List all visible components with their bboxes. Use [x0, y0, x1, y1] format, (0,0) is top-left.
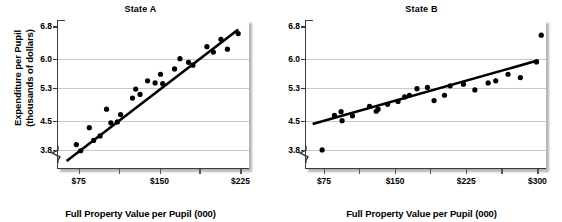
data-point	[172, 66, 177, 71]
x-tick-mark	[359, 169, 360, 174]
y-tick-label: 4.5	[278, 116, 300, 126]
data-point	[118, 112, 123, 117]
x-tick-mark	[466, 169, 467, 174]
panel-b-plot-area	[305, 20, 546, 169]
data-layer	[58, 20, 249, 168]
y-tick-label: 3.8	[278, 145, 300, 155]
data-point	[130, 96, 135, 101]
y-tick-mark	[53, 88, 57, 89]
x-tick-label: $225	[449, 176, 483, 186]
x-tick-label: $75	[307, 176, 341, 186]
x-tick-mark	[199, 169, 200, 174]
data-point	[518, 75, 523, 80]
data-point	[177, 56, 182, 61]
data-point	[91, 138, 96, 143]
data-point	[375, 107, 380, 112]
y-tick-label: 6.8	[30, 21, 52, 31]
panel-a-title: State A	[0, 4, 281, 14]
data-point	[97, 133, 102, 138]
x-tick-mark	[395, 169, 396, 174]
y-tick-label: 5.3	[278, 83, 300, 93]
x-tick-label: $300	[520, 176, 554, 186]
data-point	[448, 83, 453, 88]
data-point	[338, 109, 343, 114]
y-tick-mark	[53, 26, 57, 27]
data-point	[218, 37, 223, 42]
data-point	[211, 49, 216, 54]
data-point	[414, 86, 419, 91]
data-point	[332, 113, 337, 118]
data-point	[153, 80, 158, 85]
data-point	[395, 99, 400, 104]
panel-a-x-axis-title: Full Property Value per Pupil (000)	[0, 208, 281, 219]
x-tick-mark	[430, 169, 431, 174]
data-point	[486, 80, 491, 85]
data-point	[350, 113, 355, 118]
data-point	[442, 93, 447, 98]
x-tick-mark	[537, 169, 538, 174]
panel-b-x-axis-title: Full Property Value per Pupil (000)	[281, 208, 562, 219]
panel-a-plot-area	[57, 20, 249, 169]
x-tick-label: $150	[143, 176, 177, 186]
y-tick-mark	[301, 59, 305, 60]
data-point	[425, 85, 430, 90]
y-tick-label: 6.0	[278, 54, 300, 64]
panel-b-title: State B	[281, 4, 562, 14]
x-tick-mark	[501, 169, 502, 174]
data-point	[137, 92, 142, 97]
x-tick-mark	[240, 169, 241, 174]
data-point	[472, 87, 477, 92]
y-tick-label: 4.5	[30, 116, 52, 126]
data-point	[87, 125, 92, 130]
data-point	[461, 82, 466, 87]
data-point	[493, 78, 498, 83]
data-point	[158, 72, 163, 77]
data-point	[78, 148, 83, 153]
data-point	[104, 107, 109, 112]
y-tick-mark	[53, 59, 57, 60]
x-tick-mark	[79, 169, 80, 174]
y-tick-label: 3.8	[30, 145, 52, 155]
y-tick-mark	[301, 26, 305, 27]
data-point	[186, 60, 191, 65]
data-layer	[306, 20, 546, 168]
data-point	[190, 63, 195, 68]
y-axis-break-icon	[51, 146, 64, 163]
y-tick-label: 5.3	[30, 83, 52, 93]
data-point	[160, 81, 165, 86]
data-point	[539, 33, 544, 38]
y-tick-label: 6.0	[30, 54, 52, 64]
x-tick-mark	[160, 169, 161, 174]
data-point	[505, 72, 510, 77]
data-point	[115, 119, 120, 124]
data-point	[534, 59, 539, 64]
y-axis-break-icon	[299, 146, 312, 163]
data-point	[204, 44, 209, 49]
x-tick-label: $150	[378, 176, 412, 186]
data-point	[74, 142, 79, 147]
panel-state-a: State A 3.84.55.36.06.8$75$150$225 Full …	[0, 0, 281, 222]
data-point	[225, 47, 230, 52]
y-tick-mark	[301, 121, 305, 122]
data-point	[402, 94, 407, 99]
panel-state-b: State B 3.84.55.36.06.8$75$150$225$300 F…	[281, 0, 562, 222]
data-point	[236, 31, 241, 36]
y-tick-mark	[301, 88, 305, 89]
data-point	[320, 147, 325, 152]
data-point	[367, 104, 372, 109]
y-tick-mark	[53, 121, 57, 122]
x-tick-label: $75	[62, 176, 96, 186]
data-point	[108, 120, 113, 125]
data-point	[339, 118, 344, 123]
trend-line	[313, 60, 539, 124]
x-tick-mark	[324, 169, 325, 174]
data-point	[407, 93, 412, 98]
y-tick-label: 6.8	[278, 21, 300, 31]
data-point	[385, 102, 390, 107]
x-tick-mark	[119, 169, 120, 174]
data-point	[133, 86, 138, 91]
data-point	[431, 98, 436, 103]
data-point	[145, 78, 150, 83]
x-tick-label: $225	[223, 176, 257, 186]
scatterplot-figure: Expenditure per Pupil (thousands of doll…	[0, 0, 562, 222]
